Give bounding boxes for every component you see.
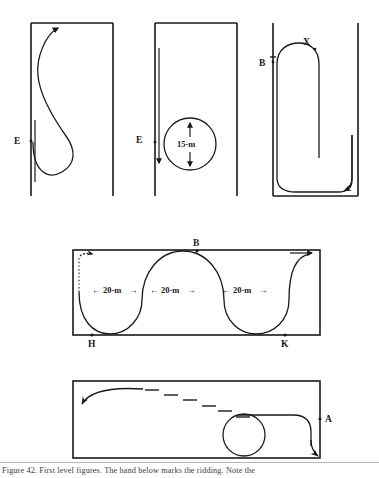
panel5-circle [223,414,265,456]
panel4-span2-right-arrow-icon: → [187,285,196,295]
panel3-hairpin-top [277,43,319,158]
panel4-entry-arrow [80,253,93,256]
figure-caption: Figure 42. First level figures. The hand… [2,466,377,475]
panel4-span3-right-arrow-icon: → [259,285,268,295]
panel4-span2-label: 20-m [161,285,179,295]
panel1-label-E: E [14,136,20,146]
panel3-label-B: B [259,58,266,68]
panel5-arena-rect [73,381,320,458]
panel1-point-E-marker [30,140,33,143]
panel4-label-B: B [193,238,200,248]
panel4-span1-label: 20-m [103,285,121,295]
panel4-label-H: H [88,339,96,349]
panel4-span3-left-arrow-icon: ← [222,285,231,295]
panel5-point-A-marker [319,418,322,421]
panel2-dimension-label: 15-m [177,139,195,149]
panel1-teardrop-path [33,28,73,175]
figure-root: E 15-m E [0,0,379,478]
panel5-dashed-diagonal [145,390,250,417]
panel4-span3-label: 20-m [233,285,251,295]
panel-serpentine: B H K ← 20-m → ← 20-m → ← 20-m → [73,238,320,349]
caption-divider-rule [0,462,379,463]
panel5-exit-arrow [311,440,318,456]
figure-drawing: E 15-m E [0,0,379,478]
panel5-entry-curve-arrow [82,388,143,404]
panel3-label-X: X [303,37,310,47]
panel4-point-B-marker [195,249,198,252]
panel3-exit-arrow [344,135,352,191]
panel-hairpin: B X [259,23,358,196]
panel4-point-K-marker [283,333,286,336]
panel-teardrop-loop: E [14,23,113,196]
panel4-point-H-marker [90,333,93,336]
panel2-point-E-marker [154,141,157,144]
panel-circle-diagonal: A [73,381,332,458]
panel3-point-B-marker [272,61,275,64]
panel5-label-A: A [325,414,332,424]
panel4-span1-right-arrow-icon: → [129,285,138,295]
panel3-point-X-marker [314,48,317,51]
panel-circle-15m: 15-m E [136,23,237,196]
panel5-loop-path [238,415,311,446]
panel3-hairpin-outer [277,64,352,192]
panel4-span2-left-arrow-icon: ← [150,285,159,295]
panel4-span1-left-arrow-icon: ← [92,285,101,295]
panel2-label-E: E [136,135,142,145]
panel4-label-K: K [281,339,289,349]
